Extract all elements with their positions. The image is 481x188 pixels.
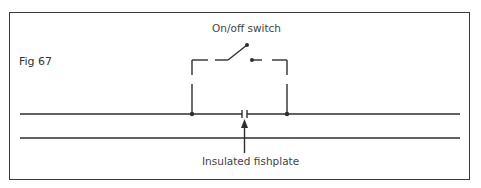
left-junction-dot	[190, 112, 194, 116]
fishplate-label: Insulated fishplate	[202, 155, 299, 167]
switch-arm	[228, 45, 247, 60]
switch-contact-dot	[250, 58, 254, 62]
figure-number-label: Fig 67	[19, 55, 52, 68]
switch-arm-end-dot	[245, 43, 249, 47]
switch-label: On/off switch	[212, 22, 281, 34]
fishplate-arrow-head-icon	[241, 119, 248, 128]
right-junction-dot	[285, 112, 289, 116]
